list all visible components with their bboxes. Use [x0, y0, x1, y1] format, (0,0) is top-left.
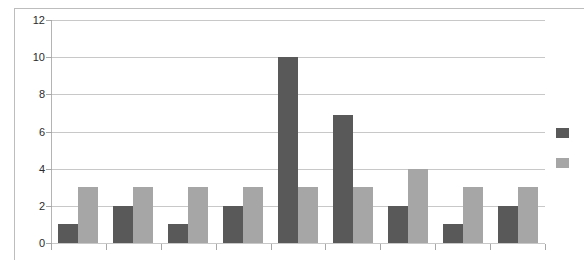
- x-tick-mark: [490, 244, 491, 250]
- chart-screenshot: 024681012: [0, 0, 585, 262]
- bar-series-2-category-7: [408, 169, 428, 243]
- y-tick-mark: [46, 169, 52, 170]
- y-tick-label: 0: [39, 237, 45, 249]
- bar-series-2-category-4: [243, 187, 263, 243]
- bar-series-1-category-6: [333, 115, 353, 243]
- x-tick-mark: [51, 244, 52, 250]
- y-tick-mark: [46, 20, 52, 21]
- bar-group: [435, 20, 490, 243]
- bar-group: [161, 20, 216, 243]
- bar-series-2-category-2: [133, 187, 153, 243]
- y-tick-mark: [46, 132, 52, 133]
- bar-series-1-category-1: [58, 224, 78, 243]
- bar-series-2-category-5: [298, 187, 318, 243]
- bar-series-1-category-2: [113, 206, 133, 243]
- chart-legend: [556, 128, 576, 188]
- y-tick-mark: [46, 206, 52, 207]
- bar-series-2-category-9: [518, 187, 538, 243]
- x-tick-mark: [380, 244, 381, 250]
- bar-series-2-category-3: [188, 187, 208, 243]
- y-tick-label: 10: [33, 51, 45, 63]
- plot-area: [51, 20, 545, 243]
- bar-group: [51, 20, 106, 243]
- bar-group: [325, 20, 380, 243]
- bar-group: [380, 20, 435, 243]
- bar-series-2-category-8: [463, 187, 483, 243]
- bar-group: [106, 20, 161, 243]
- bar-group: [271, 20, 326, 243]
- y-tick-mark: [46, 57, 52, 58]
- bar-series-1-category-4: [223, 206, 243, 243]
- bar-series-1-category-5: [278, 57, 298, 243]
- bar-series-1-category-8: [443, 224, 463, 243]
- gridline-y-0: [51, 243, 545, 244]
- x-tick-mark: [325, 244, 326, 250]
- bar-group: [490, 20, 545, 243]
- y-axis-tick-labels: 024681012: [0, 20, 45, 243]
- bar-series-1-category-3: [168, 224, 188, 243]
- legend-swatch-series-1: [556, 128, 569, 138]
- legend-entry[interactable]: [556, 158, 576, 188]
- bar-series-2-category-1: [78, 187, 98, 243]
- y-tick-label: 2: [39, 200, 45, 212]
- y-tick-mark: [46, 94, 52, 95]
- y-tick-label: 4: [39, 163, 45, 175]
- y-tick-label: 8: [39, 88, 45, 100]
- bar-series-2-category-6: [353, 187, 373, 243]
- x-tick-mark: [106, 244, 107, 250]
- y-tick-label: 6: [39, 126, 45, 138]
- bar-series-1-category-7: [388, 206, 408, 243]
- legend-swatch-series-2: [556, 158, 569, 168]
- x-tick-mark: [435, 244, 436, 250]
- x-tick-mark: [545, 244, 546, 250]
- legend-entry[interactable]: [556, 128, 576, 158]
- bar-group: [216, 20, 271, 243]
- x-tick-mark: [161, 244, 162, 250]
- bar-series-1-category-9: [498, 206, 518, 243]
- x-tick-mark: [271, 244, 272, 250]
- x-tick-mark: [216, 244, 217, 250]
- y-tick-label: 12: [33, 14, 45, 26]
